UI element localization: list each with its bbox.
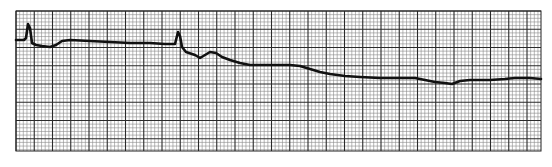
ecg-strip	[0, 0, 552, 167]
